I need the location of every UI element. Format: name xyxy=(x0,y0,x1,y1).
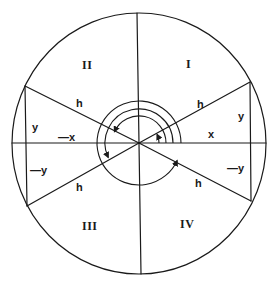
hyp-q2 xyxy=(25,86,139,143)
quadrant-label-4: IV xyxy=(180,218,194,230)
angle-arc-q1 xyxy=(157,135,159,144)
label-h-q3: h xyxy=(76,182,83,193)
label-neg-y-q4: —y xyxy=(227,163,244,174)
quadrant-label-3: III xyxy=(82,220,98,232)
quadrant-label-2: II xyxy=(82,59,92,71)
label-h-q2: h xyxy=(76,98,83,109)
leg-y-q1 xyxy=(250,82,251,201)
label-h-q4: h xyxy=(195,178,202,189)
quadrant-label-1: I xyxy=(186,58,191,70)
leg-y-q2 xyxy=(25,86,27,206)
label-y-q2: y xyxy=(32,122,38,133)
label-neg-x-q2: —x xyxy=(58,132,75,143)
hyp-q1 xyxy=(139,82,250,143)
label-neg-y-q3: —y xyxy=(30,165,47,176)
quadrant-diagram: II I III IV h y —x h y x —y h —y h xyxy=(0,0,275,286)
label-y-q1: y xyxy=(238,111,244,122)
label-h-q1: h xyxy=(197,99,204,110)
diagram-svg xyxy=(0,0,275,286)
label-x-q1: x xyxy=(208,129,214,140)
